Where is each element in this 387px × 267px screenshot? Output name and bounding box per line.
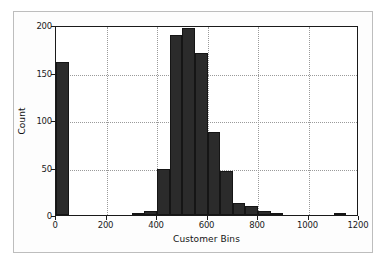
histogram-bar [271, 213, 284, 215]
x-axis-tick-label: 200 [98, 220, 114, 230]
histogram-bar [56, 62, 69, 215]
histogram-bar [144, 211, 157, 215]
x-axis-title: Customer Bins [55, 234, 358, 244]
x-axis-tick-label: 800 [249, 220, 265, 230]
x-axis-tick-label: 1200 [348, 220, 369, 230]
histogram-bar [334, 213, 347, 215]
histogram-bar [245, 206, 258, 216]
histogram-bar [182, 28, 195, 215]
gridline-vertical [107, 27, 108, 215]
gridline-vertical [258, 27, 259, 215]
histogram-bar [233, 203, 246, 215]
histogram-bar [208, 132, 221, 215]
y-axis-tick [51, 121, 55, 122]
y-axis-tick [51, 74, 55, 75]
y-axis-tick-label: 100 [36, 116, 52, 126]
histogram-bar [220, 171, 233, 215]
plot-area [55, 26, 358, 216]
y-axis-tick [51, 169, 55, 170]
y-axis-tick-label: 200 [36, 21, 52, 31]
y-axis-tick-label: 150 [36, 69, 52, 79]
x-axis-tick-label: 1000 [297, 220, 318, 230]
histogram-figure: 050100150200 Count Customer Bins 0200400… [0, 0, 387, 267]
x-axis-tick-label: 400 [148, 220, 164, 230]
y-axis-tick [51, 26, 55, 27]
gridline-vertical [309, 27, 310, 215]
histogram-bar [170, 35, 183, 215]
y-axis-title: Count [17, 107, 27, 134]
histogram-bar [258, 211, 271, 215]
histogram-bar [132, 213, 145, 215]
histogram-bar [195, 53, 208, 215]
x-axis-tick-label: 0 [52, 220, 57, 230]
histogram-bar [157, 169, 170, 215]
x-axis-tick-label: 600 [199, 220, 215, 230]
